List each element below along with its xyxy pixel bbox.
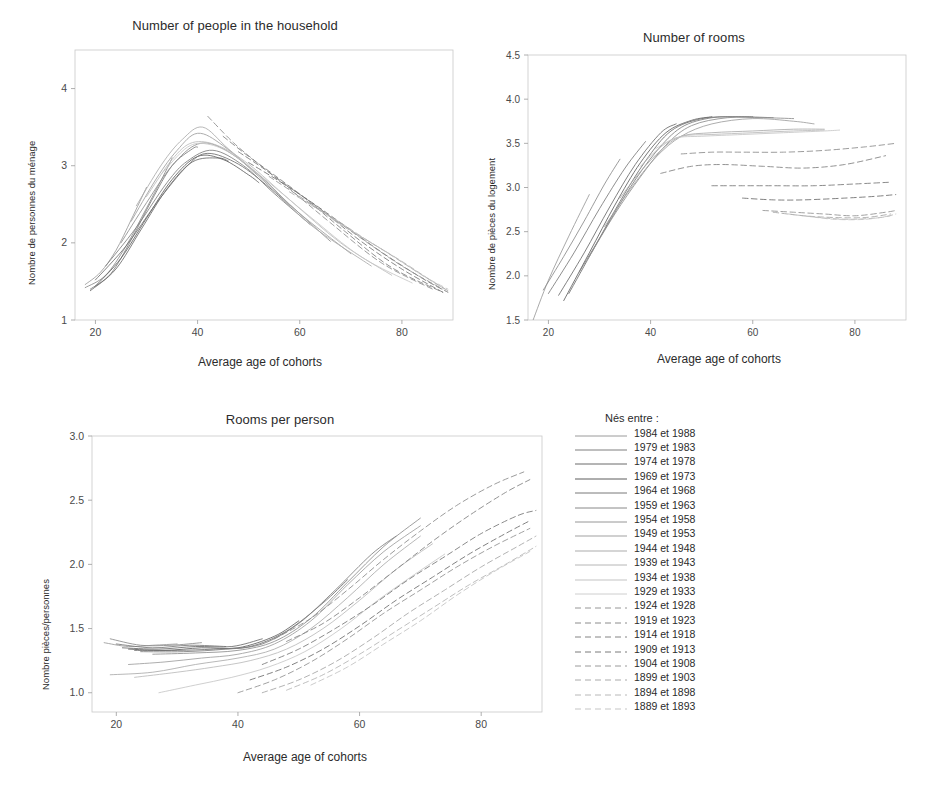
legend-item-label: 1964 et 1968 [634,485,695,496]
legend-item[interactable]: 1889 et 1893 [575,699,775,713]
legend-item-label: 1949 et 1953 [634,528,695,539]
svg-text:4.5: 4.5 [506,50,520,61]
legend-line-swatch [575,677,627,678]
svg-text:80: 80 [396,326,408,338]
legend-item-label: 1894 et 1898 [634,687,695,698]
legend-item-label: 1944 et 1948 [634,543,695,554]
legend-line-swatch [575,519,627,520]
legend-item-label: 1939 et 1943 [634,557,695,568]
legend-item[interactable]: 1914 et 1918 [575,627,775,641]
svg-text:20: 20 [90,326,102,338]
legend-item[interactable]: 1919 et 1923 [575,613,775,627]
legend-line-swatch [575,706,627,707]
svg-text:2.0: 2.0 [506,270,520,281]
x-axis-title-number-of-rooms: Average age of cohorts [510,352,928,366]
plot-area-rooms-per-person: 1.01.52.02.53.020406080 [20,400,580,792]
legend-item-label: 1934 et 1938 [634,572,695,583]
legend-item-label: 1959 et 1963 [634,500,695,511]
legend-line-swatch [575,649,627,650]
legend-item-label: 1954 et 1958 [634,514,695,525]
legend-line-swatch [575,476,627,477]
svg-text:2.5: 2.5 [69,494,84,506]
legend-item-label: 1929 et 1933 [634,586,695,597]
svg-text:60: 60 [747,327,759,338]
legend-line-swatch [575,577,627,578]
legend-line-swatch [575,548,627,549]
svg-text:80: 80 [849,327,861,338]
svg-text:4: 4 [61,82,67,94]
legend-item[interactable]: 1944 et 1948 [575,541,775,555]
svg-text:1: 1 [61,314,67,326]
legend-item[interactable]: 1974 et 1978 [575,455,775,469]
svg-text:20: 20 [543,327,555,338]
legend-item[interactable]: 1939 et 1943 [575,556,775,570]
legend-line-swatch [575,447,627,448]
legend-line-swatch [575,433,627,434]
legend-line-swatch [575,620,627,621]
legend-item-label: 1914 et 1918 [634,629,695,640]
legend-item[interactable]: 1964 et 1968 [575,484,775,498]
legend-item[interactable]: 1894 et 1898 [575,685,775,699]
legend-item[interactable]: 1959 et 1963 [575,498,775,512]
legend-item-label: 1899 et 1903 [634,672,695,683]
x-axis-title-rooms-per-person: Average age of cohorts [70,750,540,764]
legend-item[interactable]: 1924 et 1928 [575,599,775,613]
legend-item-label: 1909 et 1913 [634,644,695,655]
legend-line-swatch [575,634,627,635]
legend-item-label: 1919 et 1923 [634,615,695,626]
legend-line-swatch [575,505,627,506]
legend-item[interactable]: 1904 et 1908 [575,656,775,670]
svg-text:40: 40 [232,718,244,730]
legend-item[interactable]: 1984 et 1988 [575,426,775,440]
plot-area-people-in-household: 123420406080 [0,0,470,390]
svg-text:3.5: 3.5 [506,138,520,149]
legend-title: Nés entre : [605,412,775,424]
legend-rows: 1984 et 19881979 et 19831974 et 19781969… [575,426,775,714]
svg-text:2.5: 2.5 [506,226,520,237]
legend-line-swatch [575,461,627,462]
svg-text:60: 60 [354,718,366,730]
legend-item[interactable]: 1954 et 1958 [575,512,775,526]
svg-text:2: 2 [61,236,67,248]
svg-text:40: 40 [192,326,204,338]
legend-item[interactable]: 1909 et 1913 [575,642,775,656]
svg-text:40: 40 [645,327,657,338]
x-axis-title-people-in-household: Average age of cohorts [50,355,470,369]
legend-line-swatch [575,562,627,563]
svg-text:20: 20 [110,718,122,730]
legend-line-swatch [575,490,627,491]
svg-text:80: 80 [475,718,487,730]
legend-item[interactable]: 1899 et 1903 [575,671,775,685]
chart-panel-people-in-household: Number of people in the household Nombre… [0,0,470,390]
svg-text:2.0: 2.0 [69,558,84,570]
svg-text:60: 60 [294,326,306,338]
plot-area-number-of-rooms: 1.52.02.53.03.54.04.520406080 [460,0,928,390]
legend-line-swatch [575,605,627,606]
legend-item-label: 1979 et 1983 [634,442,695,453]
svg-text:1.0: 1.0 [69,686,84,698]
legend-item[interactable]: 1929 et 1933 [575,584,775,598]
legend-item-label: 1974 et 1978 [634,456,695,467]
chart-panel-rooms-per-person: Rooms per person Nombre pièces/personnes… [20,400,580,792]
legend-line-swatch [575,591,627,592]
svg-text:3.0: 3.0 [506,182,520,193]
legend-item-label: 1924 et 1928 [634,600,695,611]
legend-item-label: 1984 et 1988 [634,428,695,439]
legend-item[interactable]: 1979 et 1983 [575,440,775,454]
svg-text:3: 3 [61,159,67,171]
svg-text:1.5: 1.5 [506,315,520,326]
legend-item-label: 1969 et 1973 [634,471,695,482]
legend-line-swatch [575,533,627,534]
chart-panel-number-of-rooms: Number of rooms Nombre de pièces du loge… [460,0,928,390]
legend-item-label: 1889 et 1893 [634,701,695,712]
legend-item[interactable]: 1934 et 1938 [575,570,775,584]
legend-line-swatch [575,692,627,693]
legend-line-swatch [575,663,627,664]
svg-text:3.0: 3.0 [69,430,84,442]
legend-item[interactable]: 1969 et 1973 [575,469,775,483]
svg-text:4.0: 4.0 [506,94,520,105]
legend-item-label: 1904 et 1908 [634,658,695,669]
legend-item[interactable]: 1949 et 1953 [575,527,775,541]
svg-text:1.5: 1.5 [69,622,84,634]
cohort-legend: Nés entre : 1984 et 19881979 et 19831974… [575,412,775,714]
